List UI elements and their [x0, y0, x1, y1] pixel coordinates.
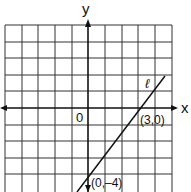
point-label-y-intercept: (0,–4)	[91, 176, 122, 190]
y-axis-up-arrow-icon	[85, 19, 91, 27]
y-axis-label: y	[82, 0, 90, 17]
x-axis-label: x	[181, 99, 189, 116]
line-label: ℓ	[145, 76, 150, 91]
x-axis	[0, 105, 178, 111]
y-axis	[85, 19, 91, 192]
coordinate-plane: y x 0 ℓ (3,0) (0,–4)	[0, 0, 191, 192]
x-axis-left-arrow-icon	[0, 105, 7, 111]
x-axis-right-arrow-icon	[171, 105, 178, 111]
origin-label: 0	[76, 110, 83, 125]
line-l	[77, 76, 165, 192]
point-label-x-intercept: (3,0)	[140, 113, 165, 127]
